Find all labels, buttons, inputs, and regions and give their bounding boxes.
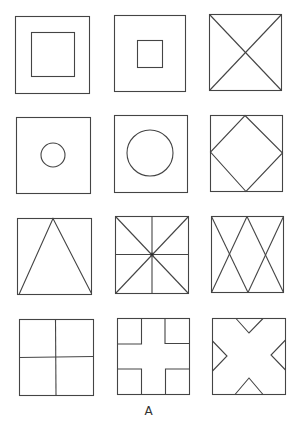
panel-square-double-x: [212, 217, 284, 293]
panel-square-in-square-small: [115, 16, 186, 92]
panel-square-star-lines: [116, 217, 189, 294]
panel-square-triangular-notches: [213, 319, 286, 395]
panel-square-small-circle: [17, 118, 91, 194]
panel-square-with-diagonals: [210, 15, 282, 91]
figure-label: A: [0, 404, 297, 418]
panel-square-in-square-large: [16, 17, 90, 94]
panel-square-triangle: [18, 219, 92, 295]
panel-square-large-circle: [115, 116, 188, 193]
figure-grid: [0, 0, 297, 436]
panel-square-inscribed-diamond: [211, 116, 283, 192]
panel-square-quadrants: [20, 320, 94, 396]
panel-square-cross-corners: [118, 319, 190, 395]
